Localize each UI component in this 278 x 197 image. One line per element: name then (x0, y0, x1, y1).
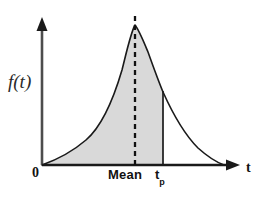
y-axis-label: f(t) (8, 72, 31, 91)
mean-tick-label: Mean (108, 168, 142, 181)
y-axis-arrow-icon (37, 17, 48, 31)
tp-subscript-text: p (159, 177, 165, 187)
tp-tick-label: tp (155, 168, 165, 185)
figure-root: f(t) 0 Mean tp t (0, 0, 278, 197)
x-axis-label: t (246, 161, 251, 175)
x-axis-arrow-icon (226, 160, 240, 171)
origin-label: 0 (32, 166, 39, 180)
